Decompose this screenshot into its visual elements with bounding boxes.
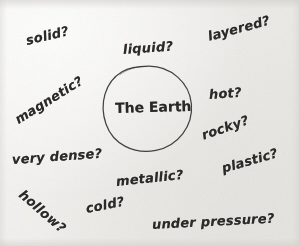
node-hot: hot? (208, 85, 242, 102)
node-solid: solid? (24, 23, 70, 47)
node-hollow: hollow? (16, 187, 69, 236)
concept-map-canvas: The Earth solid? liquid? layered? magnet… (0, 0, 299, 246)
node-plastic: plastic? (220, 145, 280, 175)
node-magnetic: magnetic? (12, 73, 86, 127)
node-cold: cold? (85, 194, 126, 216)
node-layered: layered? (206, 13, 272, 44)
node-metallic: metallic? (115, 167, 184, 189)
node-rocky: rocky? (200, 112, 251, 142)
node-liquid: liquid? (122, 39, 173, 57)
center-node-label: The Earth (115, 98, 192, 116)
node-under-pressure: under pressure? (152, 211, 275, 232)
node-very-dense: very dense? (11, 146, 102, 167)
